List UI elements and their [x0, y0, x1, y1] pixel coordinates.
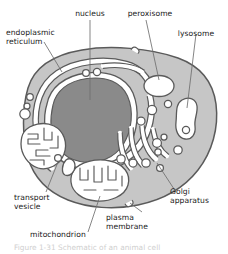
label-plasma-membrane: plasma membrane: [106, 214, 172, 232]
label-golgi-line-2: apparatus: [170, 197, 226, 206]
cell-diagram-figure: nucleus peroxisome lysosome endoplasmic …: [0, 0, 228, 254]
label-er-line-2: reticulum: [6, 38, 72, 47]
label-membrane-line-2: membrane: [106, 223, 172, 232]
label-transport-vesicle: transport vesicle: [14, 194, 74, 212]
label-vesicle-line-2: vesicle: [14, 203, 74, 212]
figure-caption: Figure 1-31 Schematic of an animal cell: [14, 243, 214, 252]
label-mitochondrion: mitochondrion: [30, 231, 106, 240]
label-nucleus: nucleus: [60, 10, 120, 19]
label-peroxisome: peroxisome: [118, 10, 182, 19]
label-endoplasmic-reticulum: endoplasmic reticulum: [6, 29, 72, 47]
label-lysosome: lysosome: [168, 30, 224, 39]
label-golgi-apparatus: Golgi apparatus: [170, 188, 226, 206]
